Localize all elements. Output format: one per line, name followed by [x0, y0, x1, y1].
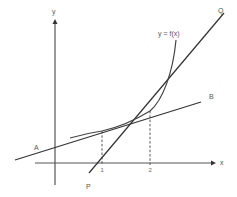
y-axis-label: y — [52, 8, 56, 16]
x-tick-2: 2 — [149, 167, 153, 173]
point-label-p: P — [86, 183, 91, 190]
point-label-a: A — [34, 144, 39, 151]
diagram-canvas: y x 1 2 A B P Q y = f(x) — [0, 0, 237, 197]
x-axis-arrow-icon — [211, 161, 216, 166]
point-label-q: Q — [218, 7, 224, 15]
x-tick-1: 1 — [101, 167, 105, 173]
x-axis-label: x — [220, 159, 224, 166]
point-label-b: B — [209, 93, 214, 100]
curve-label: y = f(x) — [158, 30, 180, 38]
tangent-line-pq — [89, 13, 224, 173]
y-axis-arrow-icon — [53, 19, 58, 24]
